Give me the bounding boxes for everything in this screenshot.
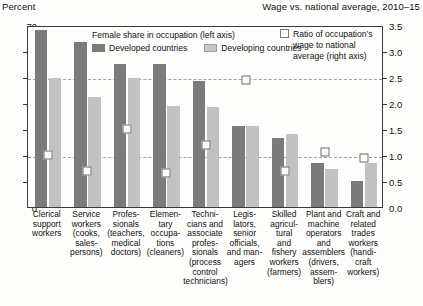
x-axis-label-line: doctors) bbox=[111, 247, 141, 257]
y-tick-label-right: 2.5 bbox=[389, 73, 417, 84]
legend-swatch-developing bbox=[204, 44, 217, 52]
x-axis-label-line: and bbox=[277, 238, 291, 248]
bar-developing bbox=[246, 126, 259, 207]
y-tick-label-right: 1.5 bbox=[389, 125, 417, 136]
x-axis-label: Plant andmachineoperatorsandassemblers(d… bbox=[302, 210, 346, 287]
x-axis-label-line: control bbox=[192, 267, 217, 277]
x-axis-label: Skilledagricul-turalandfisheryworkers(fa… bbox=[262, 210, 306, 277]
x-axis-label-line: (farmers) bbox=[267, 267, 301, 277]
y-tick-mark-right bbox=[383, 130, 387, 131]
x-axis-label-line: support bbox=[33, 219, 61, 229]
bar-developing bbox=[207, 107, 220, 207]
right-axis-title: Wage vs. national average, 2010–15 bbox=[262, 1, 420, 12]
x-axis-label-line: associate bbox=[187, 228, 222, 238]
x-axis-label-line: senior bbox=[233, 228, 256, 238]
ratio-marker bbox=[202, 140, 211, 149]
x-axis-label-line: blers) bbox=[313, 276, 334, 286]
ratio-marker bbox=[320, 148, 329, 157]
x-axis-label-line: workers bbox=[349, 238, 378, 248]
bar-developing bbox=[88, 97, 101, 208]
x-axis-label: Serviceworkers(cooks,sales-persons) bbox=[65, 210, 109, 258]
x-axis-label-line: fishery bbox=[272, 247, 297, 257]
x-axis-label-line: trades bbox=[352, 228, 375, 238]
legend-title: Female share in occupation (left axis) bbox=[92, 30, 302, 42]
ratio-marker bbox=[122, 125, 131, 134]
bar-developed bbox=[153, 64, 166, 207]
x-axis-label-line: sionals bbox=[113, 219, 139, 229]
legend-label-ratio-line1: Ratio of occupation’s bbox=[293, 29, 373, 40]
x-axis-label: Craft andrelatedtradesworkers(handi-craf… bbox=[341, 210, 385, 277]
bar-developed bbox=[351, 181, 364, 207]
x-axis-label: Techni-cians andassociateprofes-sionals(… bbox=[183, 210, 227, 287]
x-axis-label-line: workers bbox=[32, 228, 61, 238]
x-axis-label-line: agricul- bbox=[270, 219, 297, 229]
x-axis-label-line: medical bbox=[111, 238, 140, 248]
x-axis-label-line: profes- bbox=[192, 238, 218, 248]
x-axis-label-line: assemblers bbox=[302, 247, 345, 257]
x-axis-label-line: Skilled bbox=[272, 209, 297, 219]
x-axis-label-line: agers bbox=[234, 257, 255, 267]
y-tick-mark-right bbox=[383, 156, 387, 157]
x-axis-label-line: Techni- bbox=[191, 209, 218, 219]
x-axis-label-line: and man- bbox=[227, 247, 262, 257]
y-tick-mark-right bbox=[383, 104, 387, 105]
y-tick-label-right: 3.0 bbox=[389, 47, 417, 58]
legend-swatch-ratio bbox=[280, 29, 289, 38]
legend-label-ratio-line2: wage to national bbox=[293, 40, 373, 51]
x-axis-label-line: (drivers, bbox=[309, 257, 339, 267]
x-axis-label-line: Craft and bbox=[346, 209, 380, 219]
legend-label-ratio-line3: average (right axis) bbox=[293, 51, 373, 62]
x-axis-label-line: workers) bbox=[347, 267, 379, 277]
x-axis-labels: ClericalsupportworkersServiceworkers(coo… bbox=[27, 210, 383, 304]
x-axis-label-line: persons) bbox=[70, 247, 103, 257]
x-axis-label-line: operators bbox=[306, 228, 341, 238]
ratio-marker bbox=[43, 151, 52, 160]
x-axis-label-line: occupa- bbox=[151, 228, 181, 238]
ratio-marker bbox=[281, 166, 290, 175]
x-axis-label-line: Service bbox=[72, 209, 100, 219]
legend-left: Female share in occupation (left axis) D… bbox=[92, 30, 302, 54]
x-axis-label-line: (process bbox=[189, 257, 221, 267]
legend-right: Ratio of occupation’s wage to national a… bbox=[280, 29, 373, 63]
y-tick-label-right: 3.5 bbox=[389, 21, 417, 32]
x-axis-label-line: tions bbox=[157, 238, 175, 248]
x-axis-label-line: craft bbox=[355, 257, 371, 267]
ratio-marker bbox=[83, 166, 92, 175]
y-tick-mark-right bbox=[383, 78, 387, 79]
x-axis-label-line: Legis- bbox=[233, 209, 256, 219]
x-axis-label: Legis-lators,seniorofficials,and man-age… bbox=[223, 210, 267, 268]
x-axis-label-line: sionals bbox=[192, 247, 218, 257]
x-axis-label-line: Profes- bbox=[112, 209, 139, 219]
x-axis-label-line: tary bbox=[158, 219, 172, 229]
x-axis-label-line: Clerical bbox=[33, 209, 61, 219]
legend-label-ratio: Ratio of occupation’s wage to national a… bbox=[293, 29, 373, 63]
x-axis-label-line: assem- bbox=[310, 267, 337, 277]
x-axis-label-line: workers bbox=[72, 219, 101, 229]
y-tick-mark-right bbox=[383, 52, 387, 53]
bar-developing bbox=[128, 78, 141, 207]
x-axis-label: Clericalsupportworkers bbox=[25, 210, 69, 239]
x-axis-label: Elemen-taryoccupa-tions(cleaners) bbox=[144, 210, 188, 258]
x-axis-label-line: (handi- bbox=[350, 247, 376, 257]
x-axis-label-line: Elemen- bbox=[150, 209, 181, 219]
bar-developed bbox=[74, 42, 87, 207]
x-axis-label-line: cians and bbox=[187, 219, 223, 229]
bar-developed bbox=[114, 64, 127, 207]
bar-developed bbox=[35, 30, 48, 207]
legend-label-developed: Developed countries bbox=[109, 43, 187, 55]
x-axis-label-line: technicians) bbox=[183, 276, 228, 286]
y-tick-label-right: 2.0 bbox=[389, 99, 417, 110]
x-axis-label: Profes-sionals(teachers,medicaldoctors) bbox=[104, 210, 148, 258]
x-axis-label-line: sales- bbox=[75, 238, 97, 248]
x-axis-label-line: machine bbox=[308, 219, 340, 229]
x-axis-label-line: lators, bbox=[233, 219, 256, 229]
x-axis-label-line: officials, bbox=[229, 238, 259, 248]
x-axis-label-line: workers bbox=[269, 257, 298, 267]
bar-developing bbox=[365, 163, 378, 207]
chart-root: Percent Wage vs. national average, 2010–… bbox=[0, 0, 423, 306]
bar-developing bbox=[49, 78, 62, 207]
x-axis-label-line: (teachers, bbox=[107, 228, 144, 238]
bar-developed bbox=[311, 163, 324, 207]
x-axis-label-line: related bbox=[350, 219, 376, 229]
y-tick-label-right: 1.0 bbox=[389, 151, 417, 162]
